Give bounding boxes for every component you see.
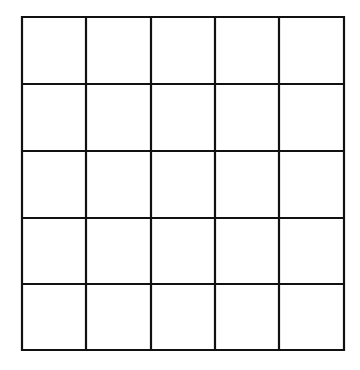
grid-cell-r4-c1 — [22, 218, 86, 284]
grid-cell-r2-c5 — [279, 84, 344, 151]
grid-cell-r4-c4 — [215, 218, 279, 284]
grid-cell-r1-c3 — [151, 17, 215, 84]
grid-diagram — [0, 0, 360, 370]
grid-cell-r2-c4 — [215, 84, 279, 151]
grid-cell-r2-c3 — [151, 84, 215, 151]
grid-cell-r1-c4 — [215, 17, 279, 84]
grid-cell-r3-c1 — [22, 151, 86, 218]
grid-cell-r3-c4 — [215, 151, 279, 218]
grid-cell-r5-c4 — [215, 284, 279, 350]
grid-cell-r5-c3 — [151, 284, 215, 350]
grid-cell-r2-c2 — [86, 84, 151, 151]
grid-cell-r2-c1 — [22, 84, 86, 151]
grid-cell-r5-c1 — [22, 284, 86, 350]
grid-cell-r3-c5 — [279, 151, 344, 218]
grid-cell-r4-c2 — [86, 218, 151, 284]
grid-cell-r1-c5 — [279, 17, 344, 84]
grid-cell-r5-c2 — [86, 284, 151, 350]
grid-cell-r3-c2 — [86, 151, 151, 218]
grid-cell-r3-c3 — [151, 151, 215, 218]
grid-cell-r4-c5 — [279, 218, 344, 284]
grid-cell-r1-c2 — [86, 17, 151, 84]
grid-cell-r1-c1 — [22, 17, 86, 84]
grid-cell-r5-c5 — [279, 284, 344, 350]
grid-cell-r4-c3 — [151, 218, 215, 284]
